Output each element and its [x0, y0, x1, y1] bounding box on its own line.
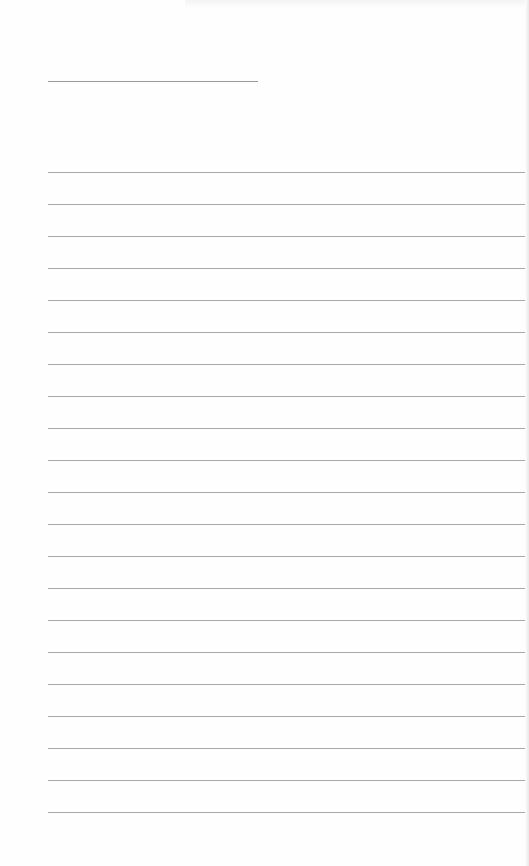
- ruled-line: [48, 236, 525, 237]
- ruled-line: [48, 332, 525, 333]
- ruled-line: [48, 300, 525, 301]
- page-edge-shadow: [525, 0, 529, 866]
- ruled-line: [48, 716, 525, 717]
- ruled-line: [48, 556, 525, 557]
- ruled-line: [48, 524, 525, 525]
- ruled-line: [48, 460, 525, 461]
- ruled-line: [48, 588, 525, 589]
- notepad-page: [0, 0, 529, 866]
- header-bleed-through: [185, 0, 525, 8]
- ruled-line: [48, 204, 525, 205]
- ruled-line: [48, 396, 525, 397]
- ruled-line: [48, 748, 525, 749]
- ruled-line: [48, 364, 525, 365]
- ruled-line: [48, 268, 525, 269]
- title-line: [48, 81, 258, 82]
- ruled-line: [48, 428, 525, 429]
- ruled-line: [48, 780, 525, 781]
- ruled-line: [48, 652, 525, 653]
- ruled-line: [48, 812, 525, 813]
- ruled-line: [48, 684, 525, 685]
- ruled-line: [48, 620, 525, 621]
- ruled-line: [48, 492, 525, 493]
- ruled-line: [48, 172, 525, 173]
